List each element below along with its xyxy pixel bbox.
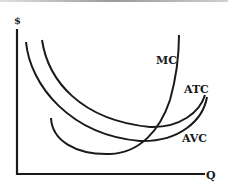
- cost-curves-diagram: $ Q MC ATC AVC: [0, 0, 228, 193]
- atc-label: ATC: [183, 83, 209, 96]
- avc-label: AVC: [181, 132, 207, 145]
- y-axis-label: $: [14, 15, 21, 26]
- x-axis-label: Q: [206, 169, 216, 182]
- atc-curve: [42, 40, 205, 127]
- axes: $ Q: [14, 15, 216, 182]
- mc-label: MC: [156, 54, 177, 67]
